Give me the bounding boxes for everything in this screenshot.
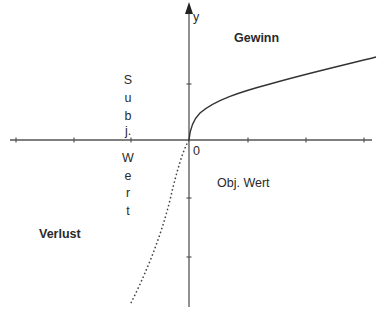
y-title-letter: r [126,186,130,200]
y-title-letter: e [125,169,132,183]
origin-label: 0 [193,144,200,158]
loss-curve [130,140,189,305]
gain-curve [189,57,376,140]
y-title-letter: W [122,151,134,165]
y-title-letter: u [125,91,132,105]
value-function-diagram: y 0 Gewinn Verlust Obj. Wert S u b j. W … [0,0,378,314]
y-axis-title: S u b j. W e r t [122,73,134,218]
loss-label: Verlust [39,227,82,241]
y-axis-arrow-icon [185,2,193,14]
y-title-letter: j. [124,124,131,138]
y-title-letter: S [124,73,132,87]
y-axis-label: y [193,10,200,24]
gain-label: Gewinn [234,31,279,45]
x-axis-title: Obj. Wert [217,176,270,190]
y-title-letter: t [126,204,130,218]
y-title-letter: b [125,109,132,123]
